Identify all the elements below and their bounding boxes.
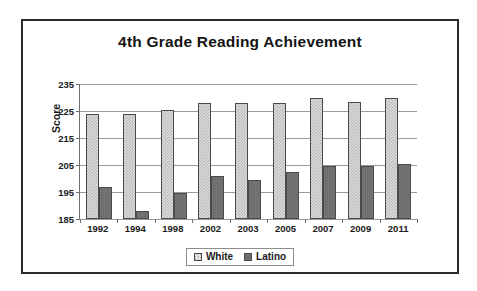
legend-box: WhiteLatino [186, 248, 294, 266]
bar-group-2003 [231, 84, 266, 219]
x-tick-label-2005: 2005 [268, 223, 303, 239]
bar-white-1994[interactable] [123, 114, 136, 219]
bar-group-2005 [268, 84, 303, 219]
bar-white-1992[interactable] [86, 114, 99, 219]
bar-group-1998 [156, 84, 191, 219]
bar-latino-2009[interactable] [361, 166, 374, 219]
x-tick-label-2009: 2009 [343, 223, 378, 239]
y-tick-label-215: 215 [58, 133, 74, 144]
bar-group-2011 [381, 84, 416, 219]
bar-group-1992 [81, 84, 116, 219]
x-tick-mark-9 [417, 219, 418, 223]
bar-white-2009[interactable] [348, 102, 361, 219]
x-axis-labels: 199219941998200220032005200720092011 [79, 223, 417, 239]
legend: WhiteLatino [23, 248, 457, 266]
bar-group-2002 [194, 84, 229, 219]
bar-group-2007 [306, 84, 341, 219]
y-tick-label-205: 205 [58, 160, 74, 171]
chart-frame: 4th Grade Reading Achievement Score 2352… [21, 19, 459, 274]
y-tick-label-225: 225 [58, 106, 74, 117]
bar-series-container [80, 84, 417, 219]
legend-label-white: White [206, 251, 233, 262]
y-tick-label-185: 185 [58, 214, 74, 225]
bar-white-2002[interactable] [198, 103, 211, 219]
bar-latino-2005[interactable] [286, 172, 299, 219]
legend-item-latino[interactable]: Latino [244, 251, 286, 262]
bar-white-2007[interactable] [310, 98, 323, 220]
gridline-185 [80, 219, 417, 220]
legend-item-white[interactable]: White [194, 251, 233, 262]
x-tick-label-2003: 2003 [230, 223, 265, 239]
bar-white-1998[interactable] [161, 110, 174, 219]
bar-group-2009 [343, 84, 378, 219]
x-tick-label-1998: 1998 [155, 223, 190, 239]
bar-latino-2002[interactable] [211, 176, 224, 219]
bar-white-2011[interactable] [385, 98, 398, 220]
bar-latino-2011[interactable] [398, 164, 411, 219]
latino-solid-swatch [244, 253, 252, 261]
x-tick-label-1994: 1994 [118, 223, 153, 239]
legend-label-latino: Latino [256, 251, 286, 262]
bar-latino-1994[interactable] [136, 211, 149, 219]
bar-latino-1992[interactable] [99, 187, 112, 219]
x-tick-label-1992: 1992 [80, 223, 115, 239]
bar-white-2003[interactable] [235, 103, 248, 219]
x-tick-label-2002: 2002 [193, 223, 228, 239]
x-tick-label-2007: 2007 [305, 223, 340, 239]
white-pattern-swatch [194, 253, 202, 261]
bar-latino-2007[interactable] [323, 166, 336, 219]
x-tick-label-2011: 2011 [381, 223, 416, 239]
plot-area: 235225215205195185 [79, 84, 417, 220]
y-tick-label-235: 235 [58, 79, 74, 90]
bar-group-1994 [119, 84, 154, 219]
bar-latino-2003[interactable] [248, 180, 261, 219]
chart-title: 4th Grade Reading Achievement [23, 33, 457, 51]
y-tick-label-195: 195 [58, 187, 74, 198]
bar-latino-1998[interactable] [174, 193, 187, 219]
bar-white-2005[interactable] [273, 103, 286, 219]
